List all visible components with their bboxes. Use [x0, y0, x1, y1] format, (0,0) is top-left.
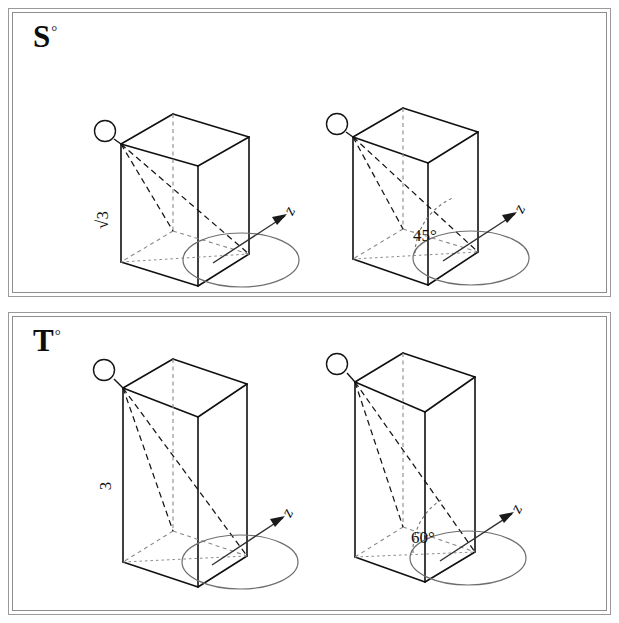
edge-length-label: 3 [96, 482, 115, 491]
vertex-callout [94, 360, 124, 389]
angle-label: 60° [411, 528, 435, 547]
diagram-sheet: S° [0, 0, 619, 623]
callout-circle [94, 360, 115, 381]
base-ellipse [182, 535, 298, 589]
panel-s: S° [8, 8, 611, 297]
panel-t: T° [8, 312, 611, 615]
figure-t-right: 60° z [303, 317, 607, 611]
axis-arrow [443, 214, 515, 261]
panel-t-inner: T° [12, 316, 607, 611]
figure-s-right: 45° z [303, 13, 607, 293]
figure-t-left: 3 z [13, 317, 313, 611]
callout-circle [327, 114, 348, 135]
callout-circle [327, 354, 348, 375]
edge-length-label: √3 [93, 211, 112, 229]
callout-circle [95, 121, 116, 142]
figure-s-left: √3 z [13, 13, 313, 293]
angle-label: 45° [413, 226, 437, 245]
base-ellipse [183, 233, 299, 287]
panel-s-inner: S° [12, 12, 607, 293]
vertex-callout [327, 354, 356, 383]
vertex-callout [327, 114, 354, 138]
axis-arrow [440, 514, 512, 561]
vertex-callout [95, 121, 122, 145]
